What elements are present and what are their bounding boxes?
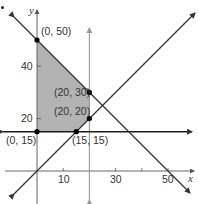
- y-tick-label-40: 40: [21, 60, 33, 72]
- x-axis-label: x: [187, 172, 193, 184]
- point-label-0-15: (0, 15): [6, 134, 36, 146]
- point-label-0-50: (0, 50): [41, 25, 71, 37]
- y-axis-label: y: [28, 4, 34, 16]
- y-tick-label-20: 20: [21, 112, 33, 124]
- point-label-20-30: (20, 30): [54, 86, 90, 98]
- x-tick-label-10: 10: [58, 173, 70, 185]
- point-label-15-15: (15, 15): [72, 134, 108, 146]
- point-label-20-20: (20, 20): [54, 105, 90, 117]
- x-tick-label-30: 30: [110, 173, 122, 185]
- x-tick-label-50: 50: [162, 173, 174, 185]
- linear-programming-graph: y x 10 30 50 40 20 (0, 50) (20, 30) (20,…: [0, 0, 198, 204]
